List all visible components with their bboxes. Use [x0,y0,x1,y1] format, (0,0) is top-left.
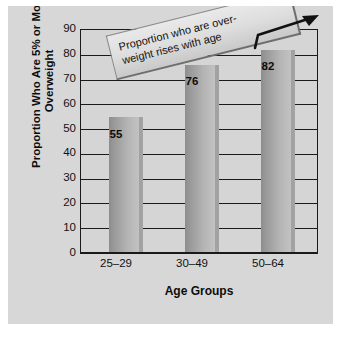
bar-30-49[interactable] [185,65,215,253]
chart-figure: Proportion Who Are 5% or More Overweight… [8,6,333,324]
bar-shadow-25-29 [139,117,143,253]
y-axis-tick-labels: 90 80 70 60 50 40 30 20 10 0 [46,29,76,253]
annotation-arrow-icon [253,8,333,58]
bar-value-25-29: 55 [94,129,138,141]
y-tick-label: 70 [52,73,76,85]
y-tick-label: 0 [52,247,76,259]
bar-50-64[interactable] [261,50,291,253]
x-axis-line [80,252,318,254]
bar-value-30-49: 76 [170,76,214,88]
y-tick-label: 90 [52,23,76,35]
bar-shadow-30-49 [215,65,219,253]
y-tick-label: 30 [52,173,76,185]
y-tick-label: 40 [52,148,76,160]
y-tick-label: 60 [52,98,76,110]
y-tick-label: 20 [52,197,76,209]
x-axis-title: Age Groups [80,284,318,298]
bar-shadow-50-64 [291,50,295,253]
y-tick-label: 80 [52,48,76,60]
x-tick-label-30-49: 30–49 [160,258,224,270]
x-tick-label-50-64: 50–64 [236,258,300,270]
x-tick-label-25-29: 25–29 [84,258,148,270]
y-tick-label: 50 [52,123,76,135]
y-tick-label: 10 [52,222,76,234]
bar-value-50-64: 82 [246,61,290,73]
